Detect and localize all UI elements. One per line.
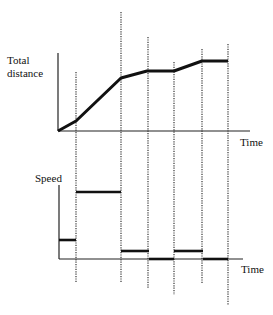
top-y-label-line2: distance: [7, 67, 43, 79]
top-y-label-line1: Total: [7, 54, 29, 66]
top-x-label: Time: [240, 136, 263, 148]
distance-speed-diagram: Total distance Time Speed Time: [0, 0, 273, 315]
bottom-y-label: Speed: [35, 172, 62, 184]
bottom-chart: Speed Time: [35, 172, 264, 275]
top-chart: Total distance Time: [7, 53, 263, 148]
segment-boundary-lines: [76, 12, 228, 305]
bottom-x-label: Time: [241, 263, 264, 275]
